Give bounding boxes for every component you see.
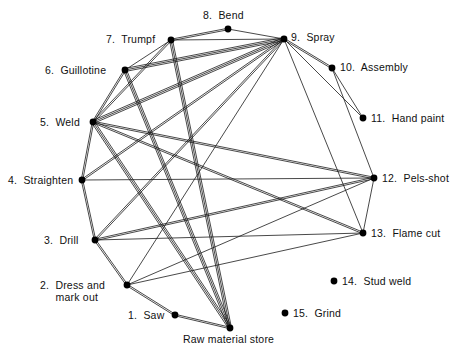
edge xyxy=(93,121,364,233)
graph-node-n2[interactable] xyxy=(124,282,131,289)
node-label-n5: 5. Weld xyxy=(40,116,80,128)
node-label-n16: Raw material store xyxy=(183,333,274,345)
graph-node-n3[interactable] xyxy=(92,237,99,244)
node-label-n12: 12. Pels-shot xyxy=(382,172,449,184)
edge xyxy=(81,122,93,180)
edge xyxy=(82,38,285,180)
graph-node-n5[interactable] xyxy=(90,119,97,126)
node-label-n10: 10. Assembly xyxy=(340,61,408,73)
node-label-n15: 15. Grind xyxy=(293,307,341,319)
edge xyxy=(127,39,284,285)
edge xyxy=(171,39,284,40)
edge xyxy=(93,121,374,178)
graph-node-n7[interactable] xyxy=(168,37,175,44)
graph-node-n12[interactable] xyxy=(371,175,378,182)
graph-node-n6[interactable] xyxy=(122,67,129,74)
edge xyxy=(124,69,232,328)
edge xyxy=(332,68,363,118)
graph-node-n10[interactable] xyxy=(329,65,336,72)
graph-node-n16[interactable] xyxy=(227,325,234,332)
graph-node-n4[interactable] xyxy=(79,177,86,184)
edge xyxy=(363,178,374,233)
edge xyxy=(95,177,374,240)
edge xyxy=(92,38,284,124)
graph-node-n14[interactable] xyxy=(331,278,338,285)
edge xyxy=(171,28,228,40)
edge xyxy=(228,29,284,39)
node-label-n14: 14. Stud weld xyxy=(342,275,411,287)
node-label-n1: 1. Saw xyxy=(128,309,164,321)
node-label-n3: 3. Drill xyxy=(44,234,78,246)
graph-node-n9[interactable] xyxy=(281,36,288,43)
node-label-n8: 8. Bend xyxy=(203,9,244,21)
network-diagram: 1. Saw2. Dress and mark out3. Drill4. St… xyxy=(0,0,458,358)
edge xyxy=(92,70,125,123)
edge xyxy=(95,233,363,240)
edge xyxy=(127,233,363,285)
edge xyxy=(284,39,363,118)
graph-node-n11[interactable] xyxy=(360,115,367,122)
node-label-n9: 9. Spray xyxy=(291,31,335,43)
node-label-n7: 7. Trumpf xyxy=(106,33,155,45)
graph-node-n13[interactable] xyxy=(360,230,367,237)
node-label-n11: 11. Hand paint xyxy=(371,112,444,124)
node-label-n6: 6. Guillotine xyxy=(45,64,106,76)
edge xyxy=(92,39,171,122)
graph-node-n15[interactable] xyxy=(282,310,289,317)
node-label-n2: 2. Dress and mark out xyxy=(40,279,105,303)
edge xyxy=(332,68,374,178)
edge xyxy=(81,180,95,240)
node-label-n4: 4. Straighten xyxy=(8,174,73,186)
node-label-n13: 13. Flame cut xyxy=(371,227,440,239)
graph-node-n8[interactable] xyxy=(225,26,232,33)
graph-node-n1[interactable] xyxy=(172,312,179,319)
